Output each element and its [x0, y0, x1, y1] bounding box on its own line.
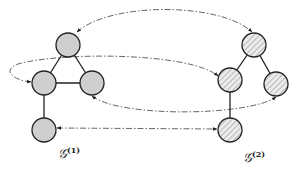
correspondence-arrow-top — [77, 10, 252, 33]
g2-node-top — [242, 33, 266, 57]
graph-1-label-sup: (1) — [67, 145, 80, 155]
graph-2 — [218, 33, 288, 142]
graph-2-label-main: 𝒢 — [243, 150, 252, 165]
g2-node-bottom — [218, 118, 242, 142]
graph-2-label-sup: (2) — [252, 149, 265, 159]
g1-node-right — [80, 71, 104, 95]
graph-1-label: 𝒢(1) — [58, 146, 80, 160]
correspondence-arrow-right — [92, 96, 276, 112]
correspondence-arrow-bottom — [57, 128, 217, 129]
graph-1-label-main: 𝒢 — [58, 146, 67, 161]
graph-2-label: 𝒢(2) — [243, 150, 265, 164]
g2-node-left — [218, 68, 242, 92]
g2-node-right — [264, 72, 288, 96]
g1-node-top — [56, 33, 80, 57]
g1-node-bottom — [32, 118, 56, 142]
g1-node-left — [32, 71, 56, 95]
graph-1 — [32, 33, 104, 142]
graph-correspondence-diagram — [0, 0, 300, 171]
